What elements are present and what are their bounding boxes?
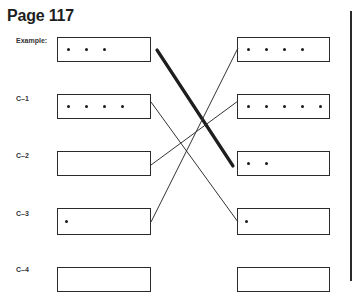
connection-c1: [151, 102, 238, 222]
connection-c3: [151, 48, 238, 222]
margin-divider: [350, 11, 352, 281]
connection-example: [157, 50, 233, 166]
